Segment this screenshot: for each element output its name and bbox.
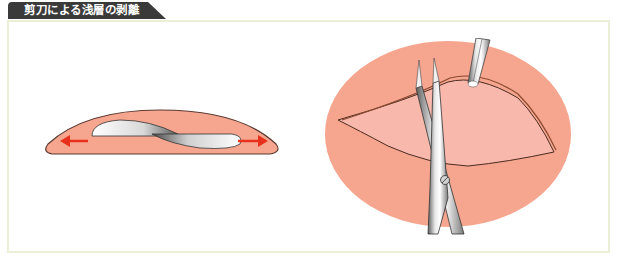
section-title: 剪刀による浅層の剥離 <box>24 3 139 18</box>
top-view-figure <box>318 38 588 238</box>
cross-section-figure <box>40 104 290 164</box>
section-title-tab: 剪刀による浅層の剥離 <box>8 2 168 19</box>
